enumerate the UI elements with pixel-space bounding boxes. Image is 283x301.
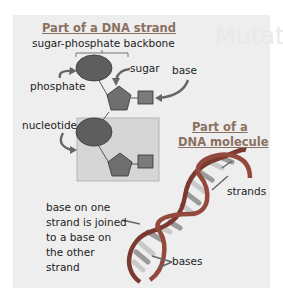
join-label-line4: the other — [46, 247, 95, 259]
strands-label: strands — [227, 186, 266, 198]
join-label-line1: base on one — [46, 202, 110, 214]
sugar-icon — [107, 86, 131, 110]
join-label-line2: strand is joined — [46, 217, 127, 229]
arrow-icon — [70, 146, 77, 154]
molecule-title-line2: DNA molecule — [178, 135, 268, 149]
base-icon — [138, 91, 153, 104]
join-label-line3: to a base on — [46, 232, 111, 244]
phosphate-icon — [76, 118, 112, 146]
arrow-icon — [155, 94, 162, 102]
nucleotide-label: nucleotide — [22, 120, 77, 132]
join-label-line5: strand — [46, 262, 80, 274]
molecule-title-line1: Part of a — [192, 120, 248, 134]
sugar-label: sugar — [130, 63, 160, 75]
bases-label: bases — [172, 256, 203, 268]
phosphate-icon — [76, 55, 112, 81]
phosphate-label: phosphate — [30, 81, 86, 93]
arrow-icon — [112, 78, 120, 86]
base-label: base — [172, 65, 197, 77]
base-icon — [138, 155, 153, 168]
dna-diagram — [0, 0, 283, 301]
